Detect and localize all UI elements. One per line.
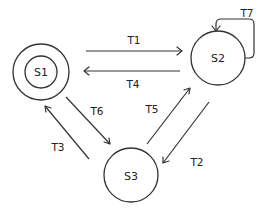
transition-t6: T6 [66, 97, 110, 144]
t2-line [163, 102, 209, 163]
transition-t4: T4 [84, 67, 180, 90]
s3-label: S3 [124, 170, 138, 183]
t3-label: T3 [50, 141, 64, 153]
t6-label: T6 [89, 105, 103, 117]
t2-label: T2 [189, 156, 203, 168]
s1-label: S1 [34, 66, 48, 79]
state-s3: S3 [104, 148, 158, 202]
s2-label: S2 [211, 52, 225, 65]
t1-label: T1 [126, 34, 140, 46]
transition-t2: T2 [163, 102, 209, 168]
t7-label: T7 [239, 7, 253, 19]
t5-label: T5 [144, 103, 158, 115]
state-s1: S1 [13, 44, 69, 100]
t4-label: T4 [125, 78, 139, 90]
transition-t1: T1 [86, 34, 182, 55]
state-s2: S2 [191, 31, 245, 85]
state-diagram: T1 T4 T7 T6 T3 T5 T2 S1 [0, 0, 268, 215]
